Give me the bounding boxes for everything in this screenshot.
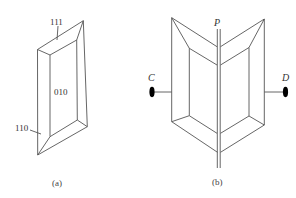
point-c-dot xyxy=(149,87,154,97)
edge xyxy=(249,116,264,125)
caption-a: (a) xyxy=(52,178,62,188)
right-crystal-inner-face xyxy=(221,48,250,134)
label-110: 110 xyxy=(15,123,29,133)
edge xyxy=(77,21,84,40)
leader-111 xyxy=(57,26,58,40)
crystal-a: 111 010 110 (a) xyxy=(15,17,87,188)
crystal-diagram: 111 010 110 (a) P C D (b) xyxy=(0,0,296,198)
point-d-dot xyxy=(283,87,288,97)
crystal-b: P C D (b) xyxy=(148,17,290,187)
label-p: P xyxy=(213,17,220,28)
leader-110 xyxy=(30,130,41,134)
edge xyxy=(38,137,50,155)
edge xyxy=(38,50,51,56)
left-crystal-outline xyxy=(172,18,218,153)
label-111: 111 xyxy=(50,17,63,27)
edge xyxy=(172,18,190,49)
caption-b: (b) xyxy=(212,177,223,187)
left-crystal-inner-face xyxy=(189,48,217,133)
label-d: D xyxy=(281,72,290,83)
edge xyxy=(77,120,87,127)
edge xyxy=(249,19,264,48)
edge xyxy=(172,116,190,122)
label-010: 010 xyxy=(54,87,68,97)
label-c: C xyxy=(148,72,155,83)
right-crystal-outline xyxy=(221,19,265,152)
